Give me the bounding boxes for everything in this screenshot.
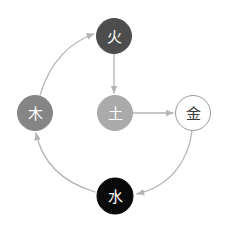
diagram-canvas: 火木土金水 (0, 0, 226, 234)
edge-wood-to-fire (40, 34, 94, 95)
node-metal[interactable]: 金 (176, 96, 211, 131)
node-label-metal: 金 (186, 105, 201, 123)
wuxing-diagram: 火木土金水 (0, 0, 226, 234)
node-layer: 火木土金水 (18, 19, 211, 215)
node-wood[interactable]: 木 (18, 96, 53, 131)
node-label-water: 水 (108, 188, 123, 206)
node-label-wood: 木 (28, 105, 43, 123)
node-fire[interactable]: 火 (97, 19, 132, 54)
node-label-earth: 土 (108, 105, 123, 123)
node-label-fire: 火 (107, 28, 122, 46)
node-earth[interactable]: 土 (98, 96, 133, 131)
node-water[interactable]: 水 (97, 178, 133, 214)
edge-metal-to-water (137, 131, 192, 194)
edge-water-to-wood (36, 133, 95, 192)
